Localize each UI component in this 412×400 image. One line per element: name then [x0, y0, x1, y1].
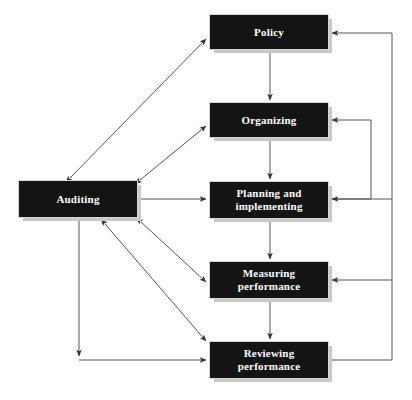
node-policy[interactable]: Policy — [209, 14, 329, 50]
connector-feedback-bus-outer — [330, 33, 392, 360]
node-auditing-label: Auditing — [52, 193, 103, 206]
connector-auditing-measuring — [141, 222, 206, 282]
node-organizing-label: Organizing — [237, 114, 300, 127]
connector-auditing-organizing — [140, 126, 206, 180]
connector-feedback-bus-inner — [332, 120, 371, 199]
node-planning-and-implementing-label: Planning and implementing — [231, 187, 306, 213]
node-organizing[interactable]: Organizing — [209, 102, 329, 138]
node-measuring-performance[interactable]: Measuring performance — [209, 261, 329, 299]
connector-auditing-policy — [70, 39, 206, 178]
connector-auditing-reviewing — [105, 224, 206, 341]
node-reviewing-performance-label: Reviewing performance — [234, 347, 305, 373]
node-planning-and-implementing[interactable]: Planning and implementing — [209, 181, 329, 219]
flow-diagram: Policy Organizing Planning and implement… — [0, 0, 412, 400]
node-measuring-performance-label: Measuring performance — [234, 267, 305, 293]
node-auditing[interactable]: Auditing — [18, 180, 138, 218]
node-reviewing-performance[interactable]: Reviewing performance — [209, 341, 329, 379]
node-policy-label: Policy — [250, 26, 288, 39]
